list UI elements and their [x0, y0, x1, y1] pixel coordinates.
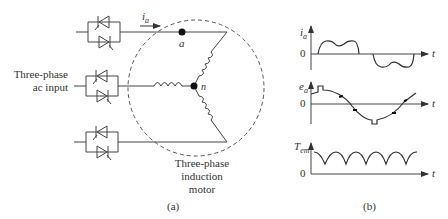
plot-emf-ylabel: ea [299, 80, 308, 97]
motor-label-line1: Three-phase [166, 157, 238, 170]
thyristor-pair-phase-b [74, 70, 130, 104]
motor-label-line2: induction [166, 170, 238, 183]
node-n-label: n [201, 80, 206, 93]
plot-current-ylabel: ia [300, 26, 307, 43]
plot-torque-ylabel: Tem [294, 140, 309, 157]
input-label: Three-phase ac input [0, 68, 68, 94]
node-n [191, 83, 198, 90]
plot-torque [311, 143, 428, 174]
plot-emf-xlabel: t [432, 97, 435, 110]
node-a-label: a [179, 37, 185, 50]
motor-label-line3: motor [166, 183, 238, 196]
caption-b: (b) [363, 200, 376, 213]
input-label-line1: Three-phase [0, 68, 68, 81]
thyristor-pair-phase-c [74, 126, 130, 160]
node-a [179, 29, 186, 36]
plot-emf [311, 82, 428, 124]
winding-c [194, 86, 227, 142]
current-label: ia [142, 10, 149, 27]
caption-a: (a) [167, 200, 179, 213]
motor-label: Three-phase induction motor [166, 157, 238, 196]
plot-current [311, 26, 428, 70]
winding-a [194, 32, 227, 86]
plot-current-origin: 0 [300, 47, 306, 60]
input-label-line2: ac input [0, 81, 68, 94]
plot-torque-origin: 0 [300, 167, 306, 180]
winding-b [154, 83, 194, 87]
plot-emf-origin: 0 [300, 97, 306, 110]
plot-current-xlabel: t [432, 47, 435, 60]
plot-torque-xlabel: t [432, 167, 435, 180]
thyristor-pair-phase-a [76, 16, 132, 50]
